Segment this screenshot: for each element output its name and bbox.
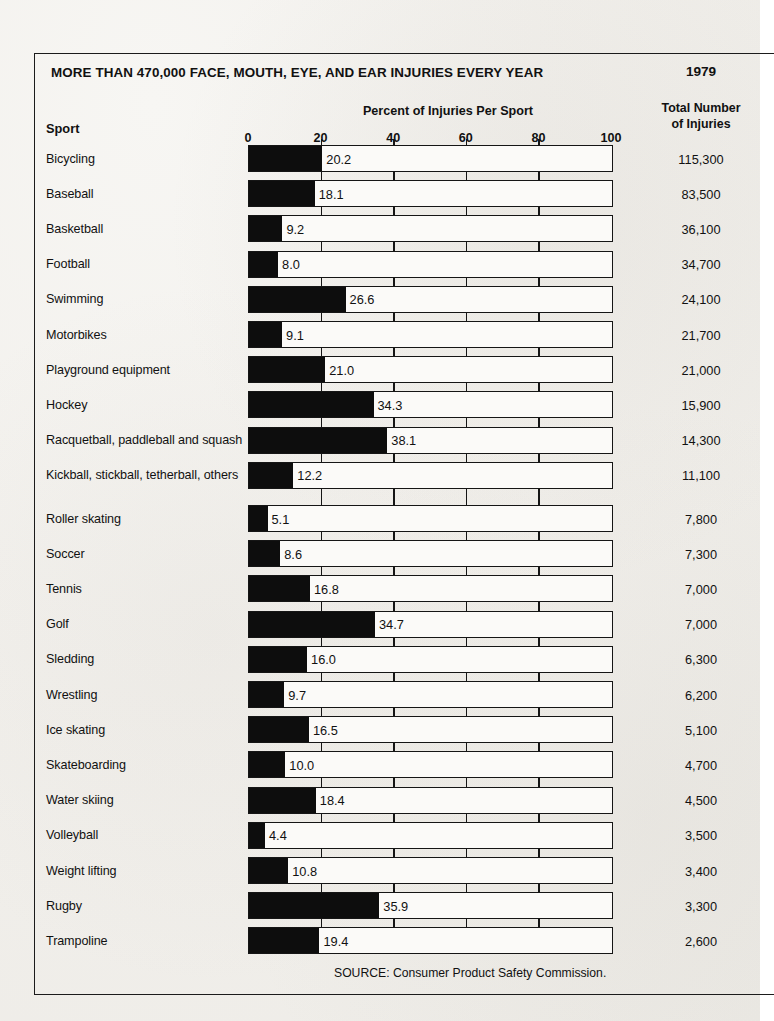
bar-track xyxy=(248,391,613,418)
table-row: Racquetball, paddleball and squash38.114… xyxy=(34,427,760,454)
total-injuries-value: 3,300 xyxy=(644,898,758,913)
sport-label: Bicycling xyxy=(46,152,95,166)
axis-gridline-tick xyxy=(321,673,323,681)
bar-fill xyxy=(249,928,319,953)
bar-fill xyxy=(249,392,374,417)
axis-gridline-tick xyxy=(321,708,323,716)
table-row: Bicycling20.2115,300 xyxy=(34,145,760,172)
bar-track xyxy=(248,540,613,567)
bar-value-label: 38.1 xyxy=(391,433,416,448)
year-label: 1979 xyxy=(646,64,756,79)
axis-gridline-tick xyxy=(393,884,395,892)
axis-gridline-tick xyxy=(321,418,323,426)
bar-fill xyxy=(249,823,265,848)
axis-gridline-tick xyxy=(321,884,323,892)
axis-gridline-tick xyxy=(321,454,323,462)
table-row: Motorbikes9.121,700 xyxy=(34,321,760,348)
table-row: Rugby35.93,300 xyxy=(34,892,760,919)
table-row: Playground equipment21.021,000 xyxy=(34,356,760,383)
bar-value-label: 8.0 xyxy=(282,257,300,272)
bar-value-label: 18.4 xyxy=(320,793,345,808)
axis-gridline-tick xyxy=(538,139,540,145)
axis-gridline-tick xyxy=(321,207,323,215)
bar-value-label: 9.2 xyxy=(286,221,304,236)
sport-label: Weight lifting xyxy=(46,864,116,878)
axis-gridline-tick xyxy=(393,849,395,857)
sport-label: Kickball, stickball, tetherball, others xyxy=(46,468,238,482)
axis-gridline-tick xyxy=(538,418,540,426)
sport-label: Swimming xyxy=(46,292,103,306)
axis-gridline-tick xyxy=(321,348,323,356)
axis-gridline-tick xyxy=(393,278,395,286)
axis-gridline-tick xyxy=(466,638,468,646)
axis-gridline-tick xyxy=(321,567,323,575)
axis-gridline-tick xyxy=(466,313,468,321)
total-column-header: Total Number of Injuries xyxy=(644,100,758,132)
axis-gridline-tick xyxy=(538,708,540,716)
table-row: Trampoline19.42,600 xyxy=(34,927,760,954)
axis-gridline-tick xyxy=(321,278,323,286)
bar-track xyxy=(248,892,613,919)
sport-label: Football xyxy=(46,257,90,271)
bar-fill xyxy=(249,463,293,488)
total-injuries-value: 3,400 xyxy=(644,863,758,878)
axis-gridline-tick xyxy=(321,313,323,321)
bar-value-label: 16.8 xyxy=(314,581,339,596)
sport-label: Motorbikes xyxy=(46,328,107,342)
bar-fill xyxy=(249,428,387,453)
bar-track xyxy=(248,427,613,454)
axis-gridline-tick xyxy=(466,673,468,681)
total-injuries-value: 11,100 xyxy=(644,468,758,483)
total-injuries-value: 6,300 xyxy=(644,652,758,667)
bar-track xyxy=(248,787,613,814)
table-row: Soccer8.67,300 xyxy=(34,540,760,567)
bar-value-label: 19.4 xyxy=(323,933,348,948)
bar-value-label: 20.2 xyxy=(326,151,351,166)
bar-value-label: 18.1 xyxy=(319,186,344,201)
axis-gridline-tick xyxy=(321,778,323,786)
axis-gridline-tick xyxy=(466,207,468,215)
total-injuries-value: 24,100 xyxy=(644,292,758,307)
axis-gridline-tick xyxy=(321,489,323,505)
axis-gridline-tick xyxy=(466,849,468,857)
table-row: Golf34.77,000 xyxy=(34,611,760,638)
axis-gridline-tick xyxy=(538,348,540,356)
bar-fill xyxy=(249,181,315,206)
axis-gridline-tick xyxy=(538,849,540,857)
sport-label: Skateboarding xyxy=(46,758,126,772)
total-column-header-line1: Total Number xyxy=(644,100,758,116)
axis-gridline-tick xyxy=(393,778,395,786)
axis-gridline-tick xyxy=(538,489,540,505)
axis-gridline-tick xyxy=(393,708,395,716)
sport-label: Trampoline xyxy=(46,934,108,948)
axis-gridline-tick xyxy=(393,814,395,822)
sport-label: Volleyball xyxy=(46,828,98,842)
axis-gridline-tick xyxy=(466,348,468,356)
axis-gridline-tick xyxy=(393,313,395,321)
table-row: Weight lifting10.83,400 xyxy=(34,857,760,884)
axis-gridline-tick xyxy=(321,532,323,540)
axis-gridline-tick xyxy=(321,814,323,822)
axis-gridline-tick xyxy=(321,139,323,145)
axis-gridline-tick xyxy=(393,242,395,250)
total-injuries-value: 83,500 xyxy=(644,186,758,201)
bar-value-label: 12.2 xyxy=(297,468,322,483)
total-injuries-value: 7,000 xyxy=(644,617,758,632)
axis-gridline-tick xyxy=(466,172,468,180)
axis-gridline-tick xyxy=(321,172,323,180)
table-row: Basketball9.236,100 xyxy=(34,215,760,242)
sport-label: Basketball xyxy=(46,222,103,236)
axis-gridline-tick xyxy=(393,638,395,646)
axis-gridline-tick xyxy=(321,383,323,391)
page-title: MORE THAN 470,000 FACE, MOUTH, EYE, AND … xyxy=(51,65,543,80)
axis-gridline-tick xyxy=(466,278,468,286)
axis-gridline-tick xyxy=(538,567,540,575)
axis-gridline-tick xyxy=(466,454,468,462)
sport-label: Ice skating xyxy=(46,723,105,737)
bar-fill xyxy=(249,216,282,241)
bar-track xyxy=(248,575,613,602)
x-tick-label-0: 0 xyxy=(244,131,251,145)
axis-gridline-tick xyxy=(466,532,468,540)
table-row: Hockey34.315,900 xyxy=(34,391,760,418)
axis-gridline-tick xyxy=(538,454,540,462)
